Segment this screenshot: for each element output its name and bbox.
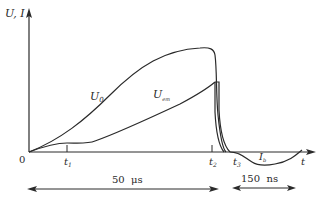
- waveform-diagram: U, I 0 t1 t2 t3 t U0 Uem Ib 50 μs 150 ns: [0, 0, 321, 202]
- u0-curve: [29, 48, 226, 152]
- x-axis-label: t: [301, 156, 306, 167]
- duration-50us-label: 50 μs: [112, 174, 143, 185]
- t1-label: t1: [64, 156, 72, 168]
- origin-label: 0: [19, 154, 25, 165]
- duration-150ns-label: 150 ns: [241, 173, 278, 184]
- t2-label: t2: [209, 156, 217, 168]
- uem-label: Uem: [153, 88, 170, 102]
- u0-label: U0: [90, 90, 104, 104]
- uem-curve: [29, 82, 215, 152]
- ib-label: Ib: [258, 151, 266, 163]
- t3-label: t3: [233, 156, 241, 168]
- y-axis-label: U, I: [5, 7, 25, 20]
